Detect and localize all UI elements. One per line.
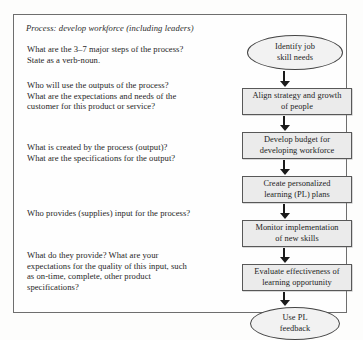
flow-node-label: Create personalized learning (PL) plans	[260, 179, 333, 199]
flow-node-label: Develop budget for developing workforce	[257, 135, 338, 155]
flow-node-label: Identify job skill needs	[272, 42, 318, 62]
question-block-major-steps: What are the 3–7 major steps of the proc…	[27, 44, 183, 65]
question-line: as on-time, complete, other product	[27, 271, 187, 282]
flow-node-create-pl-plans: Create personalized learning (PL) plans	[242, 176, 352, 203]
flow-arrow-down-icon	[279, 116, 290, 131]
question-line: What are the expectations and needs of t…	[27, 91, 176, 102]
question-block-outputs-customer: Who will use the outputs of the process?…	[27, 80, 176, 112]
question-line: State as a verb-noun.	[27, 55, 183, 66]
flow-arrow-down-icon	[279, 204, 290, 219]
flow-node-use-pl-feedback: Use PL feedback	[250, 307, 340, 340]
process-flowchart: Identify job skill needs Align strategy …	[228, 21, 346, 309]
flow-arrow-down-icon	[279, 71, 290, 87]
process-worksheet-panel: Process: develop workforce (including le…	[13, 14, 347, 313]
question-line: customer for this product or service?	[27, 101, 176, 112]
question-block-input-quality: What do they provide? What are your expe…	[27, 250, 187, 292]
flow-node-identify-job-skill-needs: Identify job skill needs	[247, 35, 343, 70]
flow-arrow-down-icon	[279, 248, 290, 263]
flow-node-label: Use PL feedback	[277, 313, 314, 333]
flow-node-label: Evaluate effectiveness of learning oppor…	[251, 267, 342, 287]
flow-node-evaluate-effectiveness: Evaluate effectiveness of learning oppor…	[242, 264, 352, 291]
flow-node-label: Align strategy and growth of people	[250, 91, 345, 111]
question-line: Who will use the outputs of the process?	[27, 80, 176, 91]
question-column: Process: develop workforce (including le…	[26, 21, 224, 307]
flow-node-align-strategy-growth: Align strategy and growth of people	[242, 88, 352, 115]
flow-node-label: Monitor implementation of new skills	[252, 223, 341, 243]
flow-node-develop-budget: Develop budget for developing workforce	[242, 132, 352, 159]
question-line: Who provides (supplies) input for the pr…	[27, 208, 190, 219]
question-line: What is created by the process (output)?	[27, 142, 175, 153]
flow-arrow-down-icon	[279, 160, 290, 175]
question-line: What do they provide? What are your	[27, 250, 187, 261]
flow-arrow-down-icon	[279, 292, 290, 306]
flow-node-monitor-implementation: Monitor implementation of new skills	[242, 220, 352, 247]
process-heading: Process: develop workforce (including le…	[26, 23, 194, 34]
question-line: What are the 3–7 major steps of the proc…	[27, 44, 183, 55]
question-block-output-specs: What is created by the process (output)?…	[27, 142, 175, 163]
question-line: What are the specifications for the outp…	[27, 153, 175, 164]
question-line: expectations for the quality of this inp…	[27, 261, 187, 272]
question-line: specifications?	[27, 282, 187, 293]
question-block-suppliers: Who provides (supplies) input for the pr…	[27, 208, 190, 219]
